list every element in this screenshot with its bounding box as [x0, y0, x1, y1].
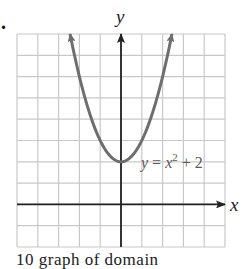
equation-label: y = x2 + 2 [139, 151, 203, 172]
svg-text:y = x2 + 2: y = x2 + 2 [139, 151, 203, 172]
x-axis-label: x [229, 194, 239, 215]
y-axis-label: y [114, 6, 125, 27]
equation-x: x [164, 154, 172, 171]
equation-constant: + 2 [178, 154, 203, 171]
cropped-caption-text: 10 graph of domain [16, 251, 159, 268]
equation-equals: = [148, 154, 165, 171]
